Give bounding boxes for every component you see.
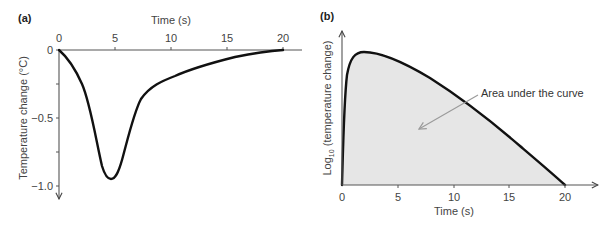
x-tick-label: 0: [339, 191, 345, 203]
x-tick-label: 5: [395, 191, 401, 203]
panel-a: (a) Time (s) 0 5 10 15 20: [17, 12, 302, 199]
x-tick-label: 0: [56, 32, 62, 44]
panel-b-x-ticks: 0 5 10 15 20: [339, 191, 571, 203]
panel-a-x-ticks: 0 5 10 15 20: [56, 32, 289, 44]
panel-b: (b) 0 5 10 15 20 Time (s) Log10 (tempera…: [320, 10, 598, 217]
panel-b-area-fill: [342, 52, 565, 185]
x-tick-label: 15: [221, 32, 233, 44]
area-under-curve-annotation: Area under the curve: [481, 87, 584, 99]
panel-b-label: (b): [320, 10, 334, 22]
panel-a-x-axis-title: Time (s): [151, 14, 191, 26]
x-tick-label: 20: [277, 32, 289, 44]
x-tick-label: 15: [503, 191, 515, 203]
x-tick-label: 10: [165, 32, 177, 44]
figure: (a) Time (s) 0 5 10 15 20: [0, 0, 608, 226]
panel-a-y-ticks: 0 −0.5 −1.0: [31, 44, 53, 192]
x-tick-label: 5: [112, 32, 118, 44]
y-tick-label: −1.0: [31, 180, 53, 192]
y-tick-label: 0: [47, 44, 53, 56]
panel-b-x-axis-title: Time (s): [434, 205, 474, 217]
y-tick-label: −0.5: [31, 112, 53, 124]
panel-a-label: (a): [18, 12, 32, 24]
panel-b-y-axis-title: Log10 (temperature change): [321, 41, 335, 176]
x-tick-label: 20: [559, 191, 571, 203]
panel-a-curve: [59, 50, 283, 179]
x-tick-label: 10: [448, 191, 460, 203]
panel-a-y-axis-title: Temperature change (°C): [17, 56, 29, 180]
